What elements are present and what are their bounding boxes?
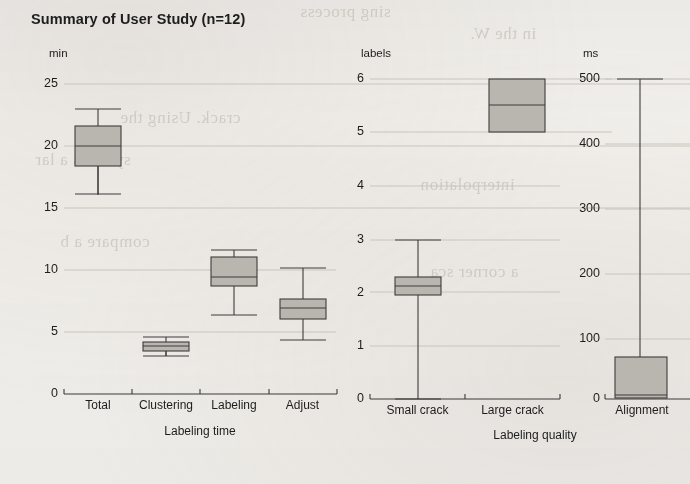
chart-alignment-ms: ms 500 400 300 200 100 0 Alignment	[0, 0, 690, 484]
right-plot-svg	[0, 0, 690, 484]
box-alignment	[615, 79, 667, 398]
right-cat-alignment: Alignment	[597, 403, 687, 417]
